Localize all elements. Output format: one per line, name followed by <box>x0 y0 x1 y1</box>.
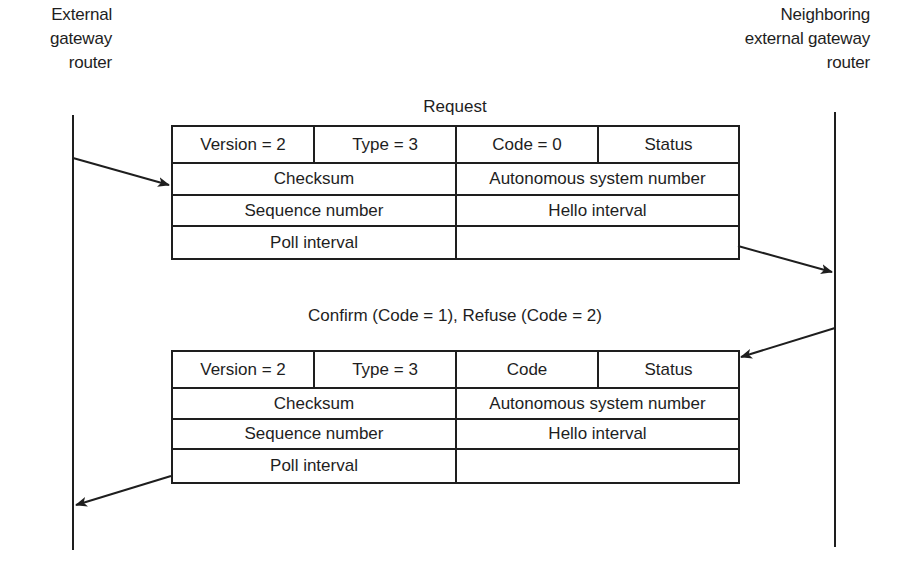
hello-interval-field: Hello interval <box>457 196 738 225</box>
response-arrow-in <box>741 328 835 357</box>
sequence-lines <box>0 0 916 575</box>
packet-row: Poll interval <box>173 227 738 258</box>
poll-interval-field: Poll interval <box>173 227 457 258</box>
response-caption: Confirm (Code = 1), Refuse (Code = 2) <box>172 306 738 326</box>
packet-row: Sequence number Hello interval <box>173 196 738 227</box>
packet-row: Version = 2 Type = 3 Code Status <box>173 352 738 389</box>
checksum-field: Checksum <box>173 164 457 194</box>
code-field: Code = 0 <box>457 127 599 162</box>
version-field: Version = 2 <box>173 127 315 162</box>
type-field: Type = 3 <box>315 352 457 387</box>
poll-interval-field: Poll interval <box>173 450 457 482</box>
empty-field <box>457 227 738 258</box>
request-arrow-out <box>738 246 832 272</box>
packet-row: Sequence number Hello interval <box>173 420 738 450</box>
request-arrow-in <box>73 158 169 185</box>
packet-row: Version = 2 Type = 3 Code = 0 Status <box>173 127 738 164</box>
packet-row: Checksum Autonomous system number <box>173 389 738 420</box>
hello-interval-field: Hello interval <box>457 420 738 448</box>
packet-row: Checksum Autonomous system number <box>173 164 738 196</box>
code-field: Code <box>457 352 599 387</box>
response-packet: Version = 2 Type = 3 Code Status Checksu… <box>171 350 740 484</box>
status-field: Status <box>599 127 738 162</box>
as-number-field: Autonomous system number <box>457 389 738 418</box>
response-arrow-out <box>76 476 171 505</box>
request-packet: Version = 2 Type = 3 Code = 0 Status Che… <box>171 125 740 260</box>
packet-row: Poll interval <box>173 450 738 482</box>
type-field: Type = 3 <box>315 127 457 162</box>
status-field: Status <box>599 352 738 387</box>
version-field: Version = 2 <box>173 352 315 387</box>
sequence-number-field: Sequence number <box>173 420 457 448</box>
request-caption: Request <box>172 97 738 117</box>
as-number-field: Autonomous system number <box>457 164 738 194</box>
empty-field <box>457 450 738 482</box>
sequence-number-field: Sequence number <box>173 196 457 225</box>
checksum-field: Checksum <box>173 389 457 418</box>
